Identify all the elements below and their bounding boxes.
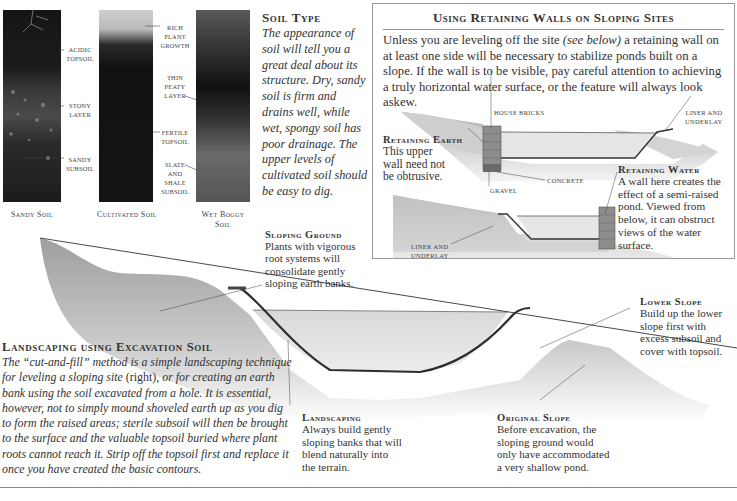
body-right-ref: (right) (126, 370, 156, 384)
label-gravel: Gravel (490, 186, 517, 195)
original-slope-heading: Original Slope (497, 412, 615, 423)
label-house-bricks: House Bricks (494, 108, 544, 117)
soil-type-body: The appearance of soil will tell you a g… (262, 26, 370, 200)
original-slope-note: Original Slope Before excavation, the sl… (497, 412, 615, 473)
original-slope-body: Before excavation, the sloping ground wo… (497, 423, 615, 473)
label-line: Underlay (685, 117, 723, 126)
label-liner-underlay-top: Liner and Underlay (685, 108, 723, 126)
retaining-walls-panel: Using Retaining Walls on Sloping Sites U… (372, 3, 735, 259)
landscaping-excavation-body: The “cut-and-fill” method is a simple la… (2, 355, 292, 477)
page-bottom-rule (0, 487, 737, 488)
caption-line: Soil (192, 220, 254, 230)
retaining-earth-body: This upper wall need not be obtrusive. (383, 145, 453, 183)
soil-type-heading: Soil Type (262, 10, 370, 26)
callout-leader-lines (0, 0, 250, 205)
sloping-ground-heading: Sloping Ground (265, 229, 375, 240)
caption-cultivated-soil: Cultivated Soil (88, 210, 166, 220)
landscaping-body: Always build gently sloping banks that w… (302, 423, 402, 473)
label-concrete: Concrete (547, 176, 584, 185)
caption-wet-boggy-soil: Wet Boggy Soil (192, 210, 254, 230)
lower-slope-note: Lower Slope Build up the lower slope fir… (640, 296, 737, 357)
retaining-earth-heading: Retaining Earth (383, 134, 473, 145)
lower-slope-heading: Lower Slope (640, 296, 737, 307)
landscaping-excavation-section: Landscaping using Excavation Soil The “c… (2, 340, 292, 477)
label-line: Liner and (685, 108, 723, 117)
caption-sandy-soil: Sandy Soil (0, 210, 64, 220)
retaining-water-heading: Retaining Water (618, 164, 733, 175)
body-text-cont: , or for creating an earth bank using th… (2, 370, 289, 476)
retaining-earth-note: Retaining Earth This upper wall need not… (383, 134, 473, 183)
caption-line: Wet Boggy (192, 210, 254, 220)
lower-slope-body: Build up the lower slope first with exce… (640, 307, 737, 357)
sloping-ground-body: Plants with vigorous root systems will c… (265, 240, 375, 290)
landscaping-excavation-heading: Landscaping using Excavation Soil (2, 340, 292, 355)
landscaping-heading: Landscaping (302, 412, 402, 423)
landscaping-note: Landscaping Always build gently sloping … (302, 412, 402, 473)
soil-type-section: Soil Type The appearance of soil will te… (262, 10, 370, 200)
sloping-ground-note: Sloping Ground Plants with vigorous root… (265, 229, 375, 290)
